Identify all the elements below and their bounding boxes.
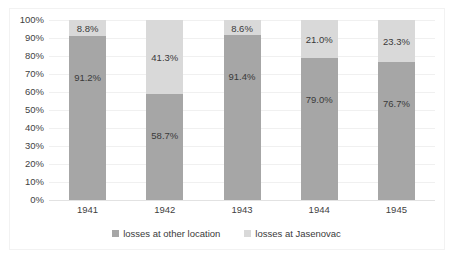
legend-item[interactable]: losses at Jasenovac	[244, 228, 341, 239]
x-axis: 19411942194319441945	[49, 204, 435, 220]
bar-segment-other-location[interactable]: 58.7%	[146, 94, 183, 200]
legend-swatch-icon	[112, 230, 119, 237]
bar-value-label: 58.7%	[146, 130, 183, 141]
y-axis-tick-label: 90%	[10, 33, 44, 43]
x-axis-tick-label: 1942	[135, 204, 195, 216]
bar-segment-other-location[interactable]: 79.0%	[301, 58, 338, 200]
bar-value-label: 23.3%	[378, 35, 415, 46]
y-axis-tick-label: 60%	[10, 87, 44, 97]
bar-value-label: 21.0%	[301, 33, 338, 44]
plot-area: 91.2%8.8%58.7%41.3%91.4%8.6%79.0%21.0%76…	[49, 20, 435, 200]
bar-segment-jasenovac[interactable]: 21.0%	[301, 20, 338, 58]
bar-segment-jasenovac[interactable]: 8.6%	[224, 20, 261, 35]
bar-segment-other-location[interactable]: 76.7%	[378, 62, 415, 200]
bar-segment-jasenovac[interactable]: 23.3%	[378, 20, 415, 62]
x-axis-tick-label: 1941	[58, 204, 118, 216]
x-axis-tick-label: 1944	[289, 204, 349, 216]
y-axis-tick-label: 10%	[10, 177, 44, 187]
y-axis-tick-label: 100%	[10, 15, 44, 25]
bar-value-label: 8.6%	[224, 22, 261, 33]
y-axis-tick-label: 50%	[10, 105, 44, 115]
x-axis-tick-label: 1945	[366, 204, 426, 216]
bar-segment-other-location[interactable]: 91.2%	[69, 36, 106, 200]
bar-group[interactable]: 79.0%21.0%	[301, 20, 338, 200]
y-axis-tick-label: 70%	[10, 69, 44, 79]
gridline	[49, 200, 435, 201]
y-axis-tick-label: 80%	[10, 51, 44, 61]
x-axis-tick-label: 1943	[212, 204, 272, 216]
bar-segment-other-location[interactable]: 91.4%	[224, 35, 261, 200]
legend-item[interactable]: losses at other location	[112, 228, 220, 239]
y-axis: 0%10%20%30%40%50%60%70%80%90%100%	[10, 20, 44, 200]
y-axis-tick-label: 40%	[10, 123, 44, 133]
bar-segment-jasenovac[interactable]: 8.8%	[69, 20, 106, 36]
bar-value-label: 91.2%	[69, 72, 106, 83]
y-axis-tick-label: 0%	[10, 195, 44, 205]
bar-group[interactable]: 58.7%41.3%	[146, 20, 183, 200]
bar-value-label: 91.4%	[224, 71, 261, 82]
bar-value-label: 76.7%	[378, 98, 415, 109]
bar-segment-jasenovac[interactable]: 41.3%	[146, 20, 183, 94]
bar-value-label: 41.3%	[146, 52, 183, 63]
y-axis-tick-label: 30%	[10, 141, 44, 151]
y-axis-tick-label: 20%	[10, 159, 44, 169]
stacked-bar-chart: 91.2%8.8%58.7%41.3%91.4%8.6%79.0%21.0%76…	[0, 0, 453, 264]
bar-group[interactable]: 76.7%23.3%	[378, 20, 415, 200]
bar-group[interactable]: 91.4%8.6%	[224, 20, 261, 200]
bar-value-label: 8.8%	[69, 22, 106, 33]
legend-swatch-icon	[244, 230, 251, 237]
legend-label: losses at other location	[123, 228, 220, 239]
chart-legend: losses at other locationlosses at Jaseno…	[0, 228, 453, 239]
bar-value-label: 79.0%	[301, 94, 338, 105]
bar-group[interactable]: 91.2%8.8%	[69, 20, 106, 200]
legend-label: losses at Jasenovac	[255, 228, 341, 239]
